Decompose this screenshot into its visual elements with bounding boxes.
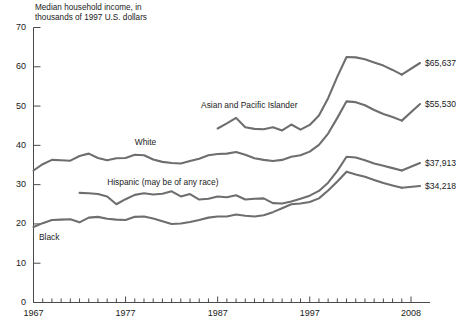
end-label-black: $34,218 [425, 181, 456, 191]
series-label-white: White [135, 137, 156, 147]
income-line-chart: Median household income, in thousands of… [0, 0, 466, 333]
axes-group [34, 28, 431, 303]
x-tick-label: 1997 [290, 308, 330, 318]
leader-lines-group [402, 63, 420, 188]
series-line-white [34, 101, 402, 170]
series-lines-group [34, 57, 402, 227]
leader-line [402, 163, 420, 171]
y-tick-label: 70 [4, 22, 26, 32]
series-label-hispanic: Hispanic (may be of any race) [107, 177, 218, 187]
y-tick-label: 30 [4, 179, 26, 189]
x-tick-label: 1967 [14, 308, 54, 318]
y-tick-label: 10 [4, 258, 26, 268]
leader-line [402, 186, 420, 188]
y-tick-label: 20 [4, 218, 26, 228]
y-tick-label: 0 [4, 297, 26, 307]
leader-line [402, 104, 420, 121]
end-label-white: $55,530 [425, 99, 456, 109]
y-tick-label: 40 [4, 140, 26, 150]
y-tick-label: 60 [4, 61, 26, 71]
y-tick-label: 50 [4, 101, 26, 111]
leader-line [402, 63, 420, 75]
series-line-asian [218, 57, 402, 130]
plot-area [0, 0, 466, 333]
x-tick-label: 2008 [391, 308, 431, 318]
end-label-asian: $65,637 [425, 58, 456, 68]
end-label-hispanic: $37,913 [425, 158, 456, 168]
tick-marks-group [34, 28, 412, 303]
series-label-black: Black [39, 232, 59, 242]
x-tick-label: 1977 [106, 308, 146, 318]
series-label-asian: Asian and Pacific Islander [201, 100, 297, 110]
x-tick-label: 1987 [198, 308, 238, 318]
